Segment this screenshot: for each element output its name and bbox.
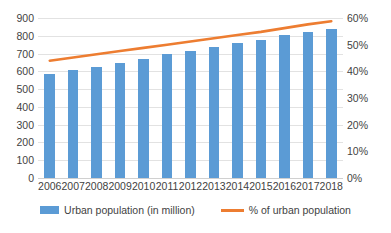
combo-chart: 9008007006005004003002001000 60%50%40%30… <box>0 0 391 233</box>
right-axis-tick: 20% <box>347 119 387 130</box>
left-axis-tick: 100 <box>0 155 34 166</box>
left-axis-tick: 400 <box>0 102 34 113</box>
x-axis-tick: 2012 <box>179 180 202 194</box>
chart-legend: Urban population (in million) % of urban… <box>0 205 391 216</box>
right-axis-tick: 40% <box>347 66 387 77</box>
left-axis-tick: 900 <box>0 13 34 24</box>
right-axis-tick: 30% <box>347 93 387 104</box>
right-axis-tick: 50% <box>347 39 387 50</box>
x-axis-tick: 2014 <box>226 180 249 194</box>
x-axis-tick: 2007 <box>62 180 85 194</box>
bar-swatch-icon <box>40 206 59 214</box>
legend-item-bar[interactable]: Urban population (in million) <box>40 205 195 216</box>
x-axis-tick: 2008 <box>85 180 108 194</box>
x-axis-tick: 2011 <box>156 180 179 194</box>
x-axis-tick: 2016 <box>273 180 296 194</box>
left-axis-tick: 0 <box>0 173 34 184</box>
x-axis-tick: 2009 <box>108 180 131 194</box>
left-axis-tick: 600 <box>0 66 34 77</box>
x-axis-tick: 2017 <box>296 180 319 194</box>
left-axis-tick: 500 <box>0 84 34 95</box>
x-axis-tick: 2015 <box>249 180 272 194</box>
legend-item-label: % of urban population <box>249 205 351 216</box>
line-path <box>50 21 332 60</box>
x-axis: 2006200720082009201020112012201320142015… <box>38 180 343 196</box>
right-axis: 60%50%40%30%20%10%0% <box>347 18 387 178</box>
right-axis-tick: 60% <box>347 13 387 24</box>
left-axis-tick: 200 <box>0 137 34 148</box>
left-axis: 9008007006005004003002001000 <box>0 18 34 178</box>
left-axis-tick: 700 <box>0 48 34 59</box>
right-axis-tick: 10% <box>347 146 387 157</box>
x-axis-tick: 2010 <box>132 180 155 194</box>
x-axis-tick: 2006 <box>38 180 61 194</box>
legend-item-label: Urban population (in million) <box>64 205 195 216</box>
plot-area <box>38 18 343 178</box>
line-series <box>38 18 343 178</box>
line-swatch-icon <box>221 209 244 212</box>
gridline <box>38 178 343 179</box>
x-axis-tick: 2013 <box>202 180 225 194</box>
legend-item-line[interactable]: % of urban population <box>221 205 351 216</box>
left-axis-tick: 300 <box>0 119 34 130</box>
left-axis-tick: 800 <box>0 31 34 42</box>
right-axis-tick: 0% <box>347 173 387 184</box>
x-axis-tick: 2018 <box>320 180 343 194</box>
